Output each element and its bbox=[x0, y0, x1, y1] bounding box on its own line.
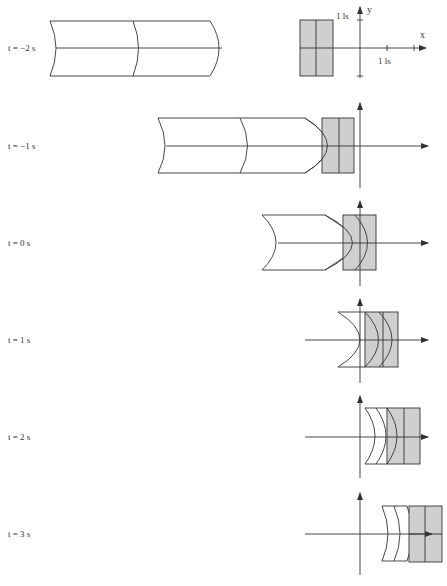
moving-object-shape bbox=[50, 21, 222, 76]
stationary-object bbox=[365, 312, 398, 367]
row-t-minus-1: t = −1 s bbox=[8, 103, 428, 188]
row-t-1: t = 1 s bbox=[8, 299, 428, 383]
time-label: t = −2 s bbox=[8, 43, 36, 53]
moving-object-front bbox=[338, 312, 360, 367]
stationary-object bbox=[343, 215, 376, 270]
moving-object-shape bbox=[158, 118, 328, 173]
y-tick-label: 1 ls bbox=[336, 11, 349, 21]
row-t-3: t = 3 s bbox=[8, 493, 442, 575]
time-label: t = −1 s bbox=[8, 141, 36, 151]
row-t-2: t = 2 s bbox=[8, 396, 428, 478]
y-axis-label: y bbox=[367, 4, 372, 15]
spacetime-diagram: t = −2 s y x 1 ls 1 ls t = −1 s bbox=[0, 0, 447, 586]
time-label: t = 1 s bbox=[8, 335, 31, 345]
row-t-0: t = 0 s bbox=[8, 201, 428, 286]
time-label: t = 0 s bbox=[8, 238, 31, 248]
moving-object-back bbox=[365, 408, 375, 464]
time-label: t = 2 s bbox=[8, 432, 31, 442]
coordinate-axes: y x 1 ls 1 ls bbox=[333, 4, 426, 78]
x-tick-label: 1 ls bbox=[378, 56, 391, 66]
moving-object-shape bbox=[262, 215, 343, 270]
moving-object-divider bbox=[376, 408, 386, 464]
moving-object-shape bbox=[382, 506, 413, 561]
x-axis-label: x bbox=[420, 29, 425, 40]
time-label: t = 3 s bbox=[8, 529, 31, 539]
stationary-object bbox=[300, 20, 333, 76]
row-t-minus-2: t = −2 s y x 1 ls 1 ls bbox=[8, 4, 426, 78]
stationary-object bbox=[322, 118, 354, 173]
